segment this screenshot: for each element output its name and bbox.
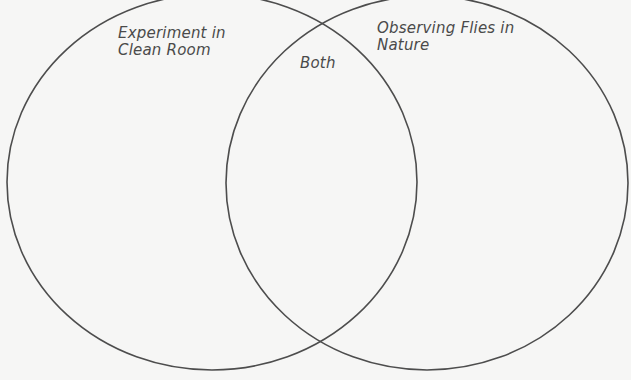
left-circle-label: Experiment in Clean Room: [118, 25, 278, 59]
right-circle: [226, 0, 628, 370]
venn-diagram-page: Experiment in Clean Room Observing Flies…: [0, 0, 631, 380]
right-circle-label: Observing Flies in Nature: [377, 20, 537, 54]
overlap-label: Both: [300, 55, 336, 72]
